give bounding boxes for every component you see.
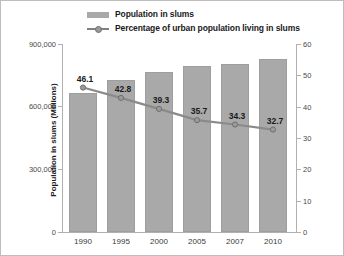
x-tick-label-2000: 2000 <box>139 238 179 246</box>
data-label-2007: 34.3 <box>229 112 246 121</box>
line-marker-2007 <box>232 122 237 127</box>
plot-area: 900,000 600,000 300,000 0 60 50 40 30 20… <box>62 44 297 232</box>
right-tick-mark <box>297 201 301 202</box>
left-tick-label: 900,000 <box>29 41 56 49</box>
x-tick-label-1995: 1995 <box>101 238 141 246</box>
data-label-1990: 46.1 <box>77 75 94 84</box>
bar-swatch-icon <box>87 8 109 21</box>
left-axis-title: Population in slums (Millions) <box>50 83 58 196</box>
right-tick-mark <box>297 232 301 233</box>
data-label-2000: 39.3 <box>153 96 170 105</box>
right-tick-label: 60 <box>303 41 311 49</box>
right-tick-label: 40 <box>303 104 311 112</box>
x-tick-label-1990: 1990 <box>63 238 103 246</box>
x-tick-label-2007: 2007 <box>215 238 255 246</box>
chart-legend: Population in slums Percentage of urban … <box>87 8 317 36</box>
right-tick-mark <box>297 44 301 45</box>
x-axis-line <box>62 232 297 233</box>
line-marker-1995 <box>118 95 123 100</box>
legend-item-population: Population in slums <box>87 8 317 21</box>
right-tick-label: 30 <box>303 135 311 143</box>
right-tick-label: 0 <box>303 229 307 237</box>
percentage-line-series <box>62 44 297 232</box>
left-tick-label: 0 <box>52 229 56 237</box>
line-marker-icon <box>87 22 109 35</box>
right-tick-mark <box>297 169 301 170</box>
legend-label-percentage: Percentage of urban population living in… <box>115 22 300 35</box>
line-marker-2005 <box>194 118 199 123</box>
legend-label-population: Population in slums <box>115 8 194 21</box>
chart-figure: Population in slums Percentage of urban … <box>0 0 344 256</box>
line-marker-2010 <box>270 127 275 132</box>
x-tick-label-2005: 2005 <box>177 238 217 246</box>
data-label-2005: 35.7 <box>191 107 208 116</box>
data-label-1995: 42.8 <box>115 85 132 94</box>
line-marker-2000 <box>156 106 161 111</box>
right-tick-label: 50 <box>303 72 311 80</box>
right-tick-mark <box>297 107 301 108</box>
x-tick-label-2010: 2010 <box>253 238 293 246</box>
right-tick-mark <box>297 138 301 139</box>
right-tick-label: 10 <box>303 198 311 206</box>
right-tick-mark <box>297 75 301 76</box>
left-tick-mark <box>58 232 62 233</box>
legend-item-percentage: Percentage of urban population living in… <box>87 22 317 35</box>
data-label-2010: 32.7 <box>267 117 284 126</box>
right-tick-label: 20 <box>303 166 311 174</box>
line-marker-1990 <box>80 85 85 90</box>
